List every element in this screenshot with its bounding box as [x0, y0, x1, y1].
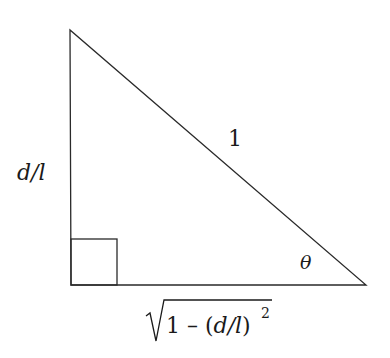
radicand-close-paren: ) [242, 313, 251, 338]
right-angle-marker [71, 239, 117, 285]
radicand-ratio: d/l [214, 313, 243, 338]
svg-text:1 – (d/l): 1 – (d/l) [166, 313, 251, 338]
radicand-one-minus: 1 – ( [166, 313, 214, 338]
right-triangle-diagram: d/l 1 θ 1 – (d/l) 2 [0, 0, 390, 358]
radicand-exponent: 2 [261, 305, 270, 321]
vertical-side-label: d/l [17, 160, 46, 185]
horizontal-side-label: 1 – (d/l) 2 [146, 300, 272, 341]
triangle-outline [70, 30, 366, 285]
angle-theta-label: θ [300, 251, 312, 273]
hypotenuse-label: 1 [228, 126, 242, 151]
